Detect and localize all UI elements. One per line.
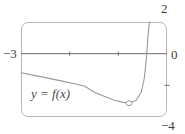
function-graph-figure: 2 0 −3 −4 y = f(x)	[0, 0, 185, 134]
y-min-label: −4	[161, 119, 175, 132]
minimum-point-marker	[126, 101, 132, 106]
x-max-label: 0	[171, 48, 178, 61]
curve-label: y = f(x)	[31, 87, 70, 100]
x-min-label: −3	[3, 47, 17, 60]
y-max-label: 2	[161, 2, 168, 15]
curve-plot-canvas	[0, 0, 185, 134]
